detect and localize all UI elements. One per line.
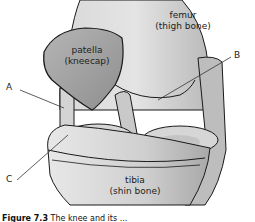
pointer-line-a [20, 90, 64, 108]
knee-diagram: femur (thigh bone) patella (kneecap) tib… [0, 0, 255, 222]
femur-sublabel-text: (thigh bone) [148, 21, 218, 32]
patella-sublabel-text: (kneecap) [52, 56, 122, 67]
femur-label-text: femur [148, 10, 218, 21]
patella-label-text: patella [52, 45, 122, 56]
tibia-sublabel-text: (shin bone) [100, 186, 170, 197]
pointer-label-c: C [6, 174, 12, 184]
tibia-label-text: tibia [100, 175, 170, 186]
patella-label: patella (kneecap) [52, 45, 122, 67]
figure-caption: Figure 7.3 The knee and its ... [2, 214, 127, 222]
caption-prefix: Figure 7.3 [2, 214, 48, 222]
caption-text: The knee and its ... [51, 214, 128, 222]
pointer-label-b: B [234, 50, 240, 60]
femur-label: femur (thigh bone) [148, 10, 218, 32]
pointer-label-a: A [6, 82, 12, 92]
tibia-label: tibia (shin bone) [100, 175, 170, 197]
